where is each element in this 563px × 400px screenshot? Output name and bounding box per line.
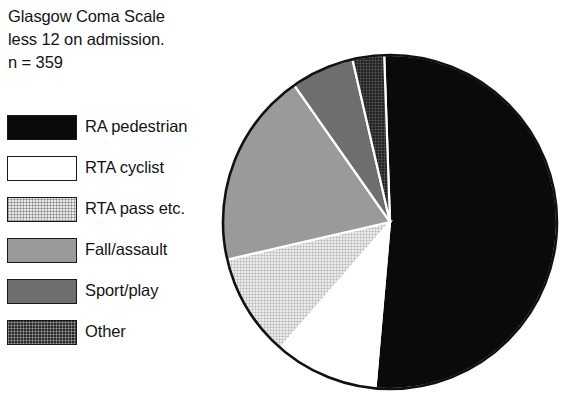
legend-swatch-icon xyxy=(7,279,77,304)
legend-item-white: RTA cyclist xyxy=(0,152,230,193)
sample-size: n = 359 xyxy=(8,51,228,74)
chart-title-block: Glasgow Coma Scale less 12 on admission.… xyxy=(8,5,228,74)
chart-legend: RA pedestrianRTA cyclistRTA pass etc.Fal… xyxy=(0,111,230,357)
legend-item-dark-gray: Sport/play xyxy=(0,275,230,316)
legend-swatch-icon xyxy=(7,115,77,140)
legend-item-solid-black: RA pedestrian xyxy=(0,111,230,152)
legend-item-dark-hatch: Other xyxy=(0,316,230,357)
legend-item-label: RTA cyclist xyxy=(85,152,164,182)
legend-item-label: RA pedestrian xyxy=(85,111,187,141)
legend-item-label: Other xyxy=(85,316,126,346)
pie-slice-rta-pass-etc xyxy=(227,222,390,348)
legend-item-label: Sport/play xyxy=(85,275,158,305)
legend-swatch-icon xyxy=(7,197,77,222)
legend-item-label: Fall/assault xyxy=(85,234,167,264)
legend-item-light-hatch: RTA pass etc. xyxy=(0,193,230,234)
legend-swatch-icon xyxy=(7,238,77,263)
pie-slices xyxy=(223,55,557,389)
pie-chart-figure: Glasgow Coma Scale less 12 on admission.… xyxy=(0,0,563,400)
pie-slice-other xyxy=(352,55,390,222)
pie-slice-fall-assault xyxy=(223,85,390,259)
legend-item-label: RTA pass etc. xyxy=(85,193,185,223)
legend-swatch-icon xyxy=(7,320,77,345)
pie-outline xyxy=(223,55,557,389)
page-title: Glasgow Coma Scale xyxy=(8,5,228,28)
pie-slice-sport-play xyxy=(294,59,390,222)
pie-slice-ra-pedestrian xyxy=(375,55,557,389)
chart-subtitle: less 12 on admission. xyxy=(8,28,228,51)
pie-slice-rta-cyclist xyxy=(280,222,390,388)
legend-item-mid-gray: Fall/assault xyxy=(0,234,230,275)
legend-swatch-icon xyxy=(7,156,77,181)
